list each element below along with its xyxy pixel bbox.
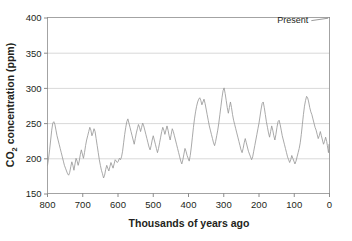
x-tick-label-400: 400 (181, 199, 197, 210)
x-tick-label-500: 500 (145, 199, 161, 210)
x-axis-title: Thousands of years ago (129, 217, 250, 229)
gridline-group (48, 53, 330, 159)
x-tick-label-700: 700 (75, 199, 91, 210)
present-leader-line (311, 18, 328, 20)
y-tick-label-200: 200 (26, 153, 42, 164)
y-tick-label-350: 350 (26, 48, 42, 59)
x-axis-ticks: 8007006005004003002001000 (40, 194, 333, 210)
plot-frame (48, 17, 331, 194)
y-tick-label-250: 250 (26, 118, 42, 129)
annotation-group: Present (277, 15, 328, 25)
present-annotation-label: Present (277, 15, 309, 25)
co2-ice-core-chart-figure: 150200250300350400 800700600500400300200… (0, 0, 352, 241)
y-axis-title: CO2 concentration (ppm) (4, 43, 19, 167)
x-tick-label-300: 300 (216, 199, 232, 210)
x-tick-label-0: 0 (327, 199, 332, 210)
chart-canvas: 150200250300350400 800700600500400300200… (0, 0, 352, 241)
y-tick-label-400: 400 (26, 12, 42, 23)
data-series-group (48, 88, 330, 178)
co2-concentration-line (48, 88, 330, 178)
x-tick-label-200: 200 (251, 199, 267, 210)
x-tick-label-100: 100 (286, 199, 302, 210)
y-axis-ticks: 150200250300350400 (26, 12, 48, 199)
x-tick-label-800: 800 (40, 199, 56, 210)
y-tick-label-300: 300 (26, 83, 42, 94)
y-axis-title-rest: concentration (ppm) (4, 43, 16, 147)
y-axis-title-main: CO (4, 151, 16, 167)
x-tick-label-600: 600 (110, 199, 126, 210)
